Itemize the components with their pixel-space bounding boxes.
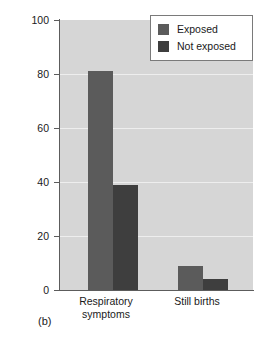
y-tick-label-20: 20 <box>9 231 49 241</box>
y-tick-mark-20 <box>54 236 59 237</box>
legend-swatch-not-exposed <box>158 41 169 52</box>
legend-label-exposed: Exposed <box>177 24 218 35</box>
y-tick-label-100: 100 <box>9 15 49 25</box>
bar-still-births-not-exposed <box>203 279 228 290</box>
legend-item-not-exposed: Not exposed <box>158 39 245 54</box>
y-tick-label-60: 60 <box>9 123 49 133</box>
y-tick-mark-100 <box>54 20 59 21</box>
bar-respiratory-symptoms-exposed <box>88 71 113 290</box>
bar-respiratory-symptoms-not-exposed <box>113 185 138 290</box>
y-tick-label-0: 0 <box>9 285 49 295</box>
legend-label-not-exposed: Not exposed <box>177 41 236 52</box>
bar-chart-figure: Frequency (percent) 100 80 60 40 20 0 Re… <box>0 0 268 339</box>
y-tick-mark-80 <box>54 74 59 75</box>
y-tick-mark-0 <box>54 290 59 291</box>
x-tick-label-respiratory-symptoms: Respiratory symptoms <box>60 295 152 320</box>
y-tick-label-40: 40 <box>9 177 49 187</box>
y-tick-label-80: 80 <box>9 69 49 79</box>
legend: Exposed Not exposed <box>150 15 253 61</box>
panel-caption: (b) <box>38 315 51 327</box>
x-axis-line <box>59 290 254 291</box>
y-axis-line <box>59 19 60 291</box>
y-tick-mark-60 <box>54 128 59 129</box>
x-tick-label-still-births: Still births <box>151 295 243 308</box>
legend-item-exposed: Exposed <box>158 22 245 37</box>
legend-swatch-exposed <box>158 24 169 35</box>
bar-still-births-exposed <box>178 266 203 290</box>
y-tick-mark-40 <box>54 182 59 183</box>
